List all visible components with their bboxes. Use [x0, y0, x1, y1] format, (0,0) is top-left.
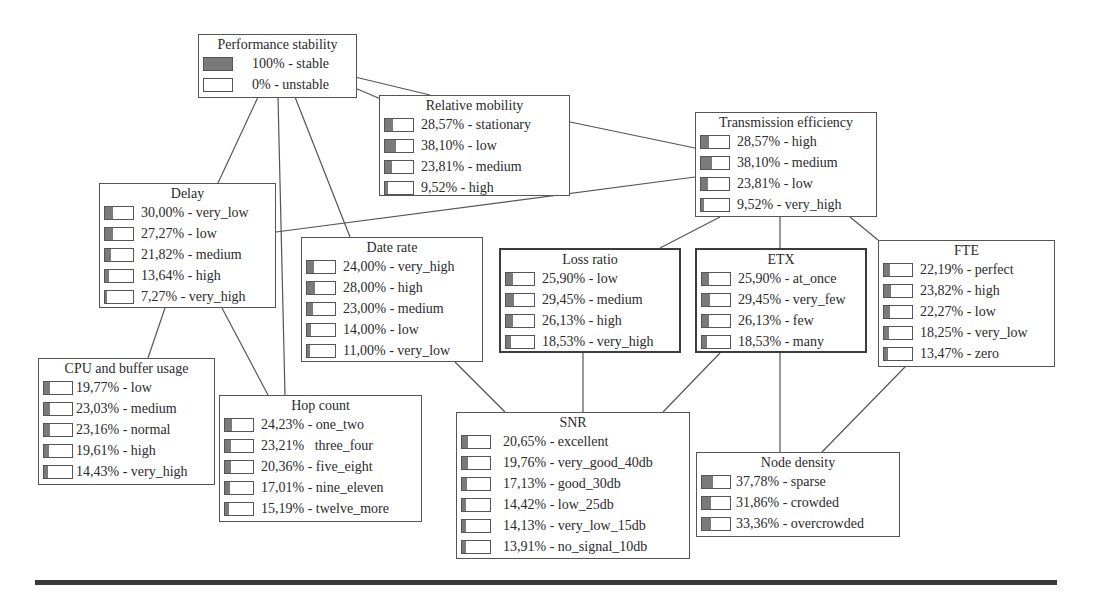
state-row[interactable]: 23,16% - normal: [43, 419, 210, 440]
state-row[interactable]: 33,36% - overcrowded: [701, 513, 895, 534]
state-row[interactable]: 20,65% - excellent: [461, 431, 685, 452]
node-title: Node density: [701, 454, 895, 471]
probability-bar-fill: [44, 403, 50, 415]
footer-rule: [35, 580, 1057, 585]
state-row[interactable]: 27,27% - low: [104, 223, 271, 244]
state-row[interactable]: 14,13% - very_low_15db: [461, 515, 685, 536]
node-node-density[interactable]: Node density 37,78% - sparse 31,86% - cr…: [696, 452, 900, 537]
node-hop-count[interactable]: Hop count 24,23% - one_two 23,21% three_…: [219, 395, 422, 522]
state-label: 19,61% - high: [76, 443, 156, 459]
probability-bar: [701, 335, 731, 349]
state-row[interactable]: 21,82% - medium: [104, 244, 271, 265]
edge-delay-to-cpu: [148, 308, 165, 358]
probability-bar: [883, 347, 913, 361]
state-row[interactable]: 38,10% - low: [384, 135, 565, 156]
edge-perf-stability-to-delay: [218, 97, 258, 183]
probability-bar-fill: [307, 303, 313, 315]
state-row[interactable]: 14,43% - very_high: [43, 461, 210, 482]
state-row[interactable]: 37,78% - sparse: [701, 471, 895, 492]
node-delay[interactable]: Delay 30,00% - very_low 27,27% - low 21,…: [99, 183, 276, 308]
node-snr[interactable]: SNR 20,65% - excellent 19,76% - very_goo…: [456, 412, 690, 559]
state-row[interactable]: 11,00% - very_low: [306, 340, 478, 361]
state-label: 14,42% - low_25db: [503, 497, 614, 513]
node-date-rate[interactable]: Date rate 24,00% - very_high 28,00% - hi…: [301, 237, 483, 362]
state-row[interactable]: 19,77% - low: [43, 377, 210, 398]
probability-bar: [701, 293, 731, 307]
state-row[interactable]: 28,57% - stationary: [384, 114, 565, 135]
state-row[interactable]: 13,91% - no_signal_10db: [461, 536, 685, 557]
state-row[interactable]: 23,21% three_four: [224, 435, 417, 456]
probability-bar: [505, 314, 535, 328]
state-row[interactable]: 14,00% - low: [306, 319, 478, 340]
probability-bar: [306, 323, 336, 337]
state-row[interactable]: 17,13% - good_30db: [461, 473, 685, 494]
state-row[interactable]: 23,03% - medium: [43, 398, 210, 419]
state-row[interactable]: 38,10% - medium: [700, 152, 872, 173]
probability-bar-fill: [462, 478, 467, 490]
probability-bar-fill: [701, 178, 708, 190]
state-row[interactable]: 31,86% - crowded: [701, 492, 895, 513]
state-row[interactable]: 24,00% - very_high: [306, 256, 478, 277]
probability-bar-fill: [462, 520, 466, 532]
node-performance-stability[interactable]: Performance stability 100% - stable 0% -…: [198, 34, 357, 98]
state-label: 22,19% - perfect: [920, 262, 1014, 278]
node-relative-mobility[interactable]: Relative mobility 28,57% - stationary 38…: [379, 95, 570, 196]
node-cpu-buffer-usage[interactable]: CPU and buffer usage 19,77% - low 23,03%…: [38, 358, 215, 485]
probability-bar-fill: [702, 294, 710, 306]
node-loss-ratio[interactable]: Loss ratio 25,90% - low 29,45% - medium …: [499, 248, 681, 353]
probability-bar-fill: [702, 476, 713, 488]
state-label: 22,27% - low: [920, 304, 996, 320]
state-row[interactable]: 30,00% - very_low: [104, 202, 271, 223]
state-row[interactable]: 23,00% - medium: [306, 298, 478, 319]
state-row[interactable]: 100% - stable: [203, 53, 352, 74]
probability-bar-fill: [105, 270, 109, 282]
state-row[interactable]: 9,52% - high: [384, 177, 565, 198]
node-fte[interactable]: FTE 22,19% - perfect 23,82% - high 22,27…: [878, 240, 1055, 367]
probability-bar: [700, 177, 730, 191]
probability-bar: [203, 78, 233, 92]
node-title: ETX: [701, 251, 861, 268]
state-row[interactable]: 0% - unstable: [203, 74, 352, 95]
edge-date-rate-to-snr: [455, 362, 505, 412]
state-row[interactable]: 24,23% - one_two: [224, 414, 417, 435]
state-row[interactable]: 14,42% - low_25db: [461, 494, 685, 515]
state-row[interactable]: 19,61% - high: [43, 440, 210, 461]
state-label: 25,90% - low: [542, 271, 618, 287]
state-row[interactable]: 17,01% - nine_eleven: [224, 477, 417, 498]
probability-bar: [43, 465, 73, 479]
probability-bar: [306, 344, 336, 358]
state-row[interactable]: 23,82% - high: [883, 280, 1050, 301]
state-row[interactable]: 19,76% - very_good_40db: [461, 452, 685, 473]
state-row[interactable]: 25,90% - at_once: [701, 268, 861, 289]
state-row[interactable]: 15,19% - twelve_more: [224, 498, 417, 519]
state-row[interactable]: 22,19% - perfect: [883, 259, 1050, 280]
probability-bar-fill: [701, 199, 704, 211]
state-row[interactable]: 20,36% - five_eight: [224, 456, 417, 477]
state-row[interactable]: 13,47% - zero: [883, 343, 1050, 364]
state-label: 20,36% - five_eight: [261, 459, 373, 475]
state-row[interactable]: 18,53% - very_high: [505, 331, 675, 352]
state-row[interactable]: 29,45% - very_few: [701, 289, 861, 310]
node-etx[interactable]: ETX 25,90% - at_once 29,45% - very_few 2…: [695, 248, 867, 353]
state-row[interactable]: 7,27% - very_high: [104, 286, 271, 307]
state-row[interactable]: 9,52% - very_high: [700, 194, 872, 215]
state-row[interactable]: 26,13% - few: [701, 310, 861, 331]
probability-bar-fill: [105, 249, 111, 261]
probability-bar-fill: [225, 461, 231, 473]
state-row[interactable]: 26,13% - high: [505, 310, 675, 331]
probability-bar-fill: [307, 261, 314, 273]
state-row[interactable]: 13,64% - high: [104, 265, 271, 286]
probability-bar-fill: [204, 58, 232, 70]
state-row[interactable]: 29,45% - medium: [505, 289, 675, 310]
state-row[interactable]: 23,81% - low: [700, 173, 872, 194]
state-row[interactable]: 18,53% - many: [701, 331, 861, 352]
state-row[interactable]: 22,27% - low: [883, 301, 1050, 322]
state-row[interactable]: 25,90% - low: [505, 268, 675, 289]
state-row[interactable]: 23,81% - medium: [384, 156, 565, 177]
state-row[interactable]: 18,25% - very_low: [883, 322, 1050, 343]
probability-bar: [384, 181, 414, 195]
node-transmission-efficiency[interactable]: Transmission efficiency 28,57% - high 38…: [695, 112, 877, 217]
state-row[interactable]: 28,00% - high: [306, 277, 478, 298]
probability-bar-fill: [884, 285, 891, 297]
state-row[interactable]: 28,57% - high: [700, 131, 872, 152]
